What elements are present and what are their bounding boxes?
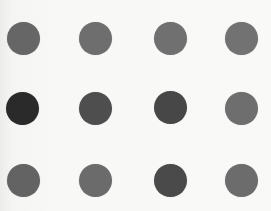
gray-dot-r2-c2 [154,164,187,197]
gray-dot-r0-c2 [154,22,187,55]
gray-dot-r0-c3 [225,22,258,55]
gray-dot-r2-c3 [225,164,258,197]
gray-dot-r0-c1 [79,22,112,55]
gray-dot-r1-c0 [6,92,39,125]
gray-dot-r1-c3 [225,92,258,125]
gray-dot-r1-c1 [79,92,112,125]
gray-dot-r1-c2 [154,91,187,124]
gray-dot-r2-c0 [7,164,40,197]
dot-grid-canvas [0,0,271,211]
gray-dot-r0-c0 [7,22,40,55]
gray-dot-r2-c1 [79,164,112,197]
